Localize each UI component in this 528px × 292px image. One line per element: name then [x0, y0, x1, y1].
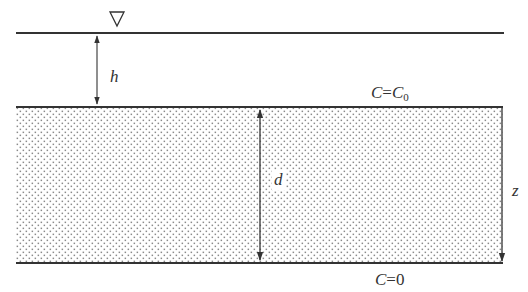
diagram-canvas: h C=C0 d z C=0 — [0, 0, 528, 292]
d-label: d — [274, 170, 283, 189]
h-label: h — [110, 67, 119, 86]
top-boundary-condition: C=C0 — [371, 83, 409, 103]
z-label: z — [511, 181, 519, 200]
water-level-icon — [110, 12, 124, 26]
bottom-boundary-condition: C=0 — [375, 270, 404, 289]
